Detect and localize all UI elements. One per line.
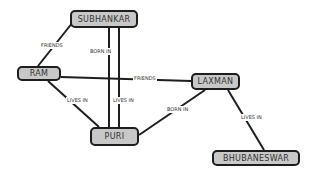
- edge-label-friends-2: FRIENDS: [133, 75, 157, 82]
- node-subhankar[interactable]: SUBHANKAR: [70, 10, 138, 28]
- node-label: PURI: [105, 132, 125, 141]
- edge-label-born-in-2: BORN IN: [166, 106, 189, 113]
- edge-label-born-in-1: BORN IN: [89, 48, 112, 55]
- edge-label-friends-1: FRIENDS: [40, 42, 64, 49]
- node-ram[interactable]: RAM: [17, 66, 61, 81]
- node-laxman[interactable]: LAXMAN: [191, 73, 240, 90]
- node-label: LAXMAN: [198, 77, 234, 86]
- node-puri[interactable]: PURI: [90, 127, 139, 146]
- edge-label-lives-in-3: LIVES IN: [240, 114, 263, 121]
- node-label: RAM: [30, 69, 49, 78]
- edge-ram-puri: [48, 81, 99, 127]
- edge-ram-laxman: [61, 77, 191, 81]
- edge-label-lives-in-1: LIVES IN: [66, 97, 89, 104]
- node-label: SUBHANKAR: [78, 15, 131, 24]
- graph-diagram: FRIENDS BORN IN FRIENDS LIVES IN LIVES I…: [0, 0, 316, 175]
- edges-layer: [0, 0, 316, 175]
- node-label: BHUBANESWAR: [223, 154, 289, 163]
- edge-label-lives-in-2: LIVES IN: [112, 97, 135, 104]
- node-bhubaneswar[interactable]: BHUBANESWAR: [212, 150, 300, 166]
